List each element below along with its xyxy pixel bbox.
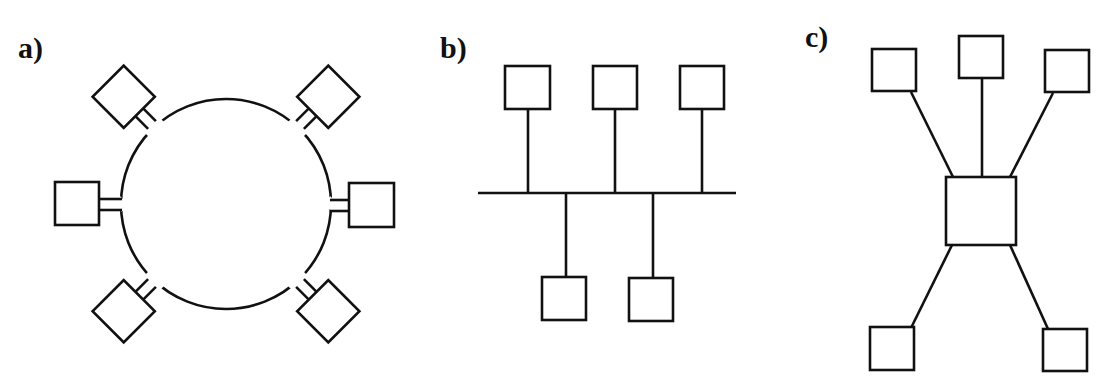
node-box [93, 280, 155, 342]
panel-star: c) [805, 20, 1089, 371]
bus-node-bottom-2 [629, 193, 673, 321]
node-box [505, 66, 550, 109]
panel-label-a: a) [18, 31, 43, 65]
node-box [93, 66, 155, 128]
spoke-top-left [911, 92, 953, 177]
ring-node-right [330, 183, 394, 227]
star-node-top-center [959, 36, 1003, 78]
panel-ring: a) [18, 31, 394, 342]
panel-label-c: c) [805, 20, 828, 54]
spoke-top-right [1010, 93, 1053, 177]
star-node-bottom-left [870, 327, 914, 370]
node-box [55, 182, 99, 225]
star-node-bottom-right [1043, 329, 1087, 371]
bus-node-bottom-1 [542, 193, 586, 320]
node-box [542, 277, 586, 320]
star-hub [946, 177, 1016, 245]
node-box [297, 280, 359, 342]
node-box [593, 66, 637, 109]
ring-gaps [117, 120, 335, 288]
bus-node-top-2 [593, 66, 637, 193]
spoke-bottom-left [911, 245, 952, 328]
star-node-top-right [1045, 50, 1089, 92]
node-box [680, 66, 724, 109]
bus-node-top-1 [505, 66, 550, 193]
node-box [629, 278, 673, 321]
panel-bus: b) [440, 31, 736, 321]
panel-label-b: b) [440, 31, 467, 65]
node-box [349, 183, 394, 227]
bus-node-top-3 [680, 66, 724, 193]
network-topologies-figure: a) [0, 0, 1113, 392]
star-node-top-left [872, 49, 916, 91]
ring-node-left [55, 182, 122, 225]
spoke-bottom-right [1010, 245, 1048, 329]
node-box [297, 66, 359, 128]
